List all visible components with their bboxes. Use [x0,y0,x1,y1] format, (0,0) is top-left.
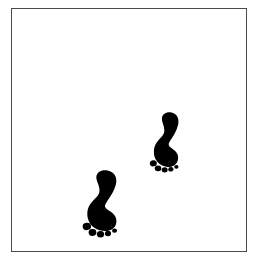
image-panel-border [11,8,247,252]
figure-root: A white square panel outlined with a thi… [0,0,258,267]
